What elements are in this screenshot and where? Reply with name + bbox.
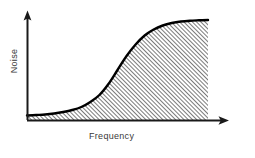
x-axis-label: Frequency: [89, 131, 134, 141]
noise-frequency-figure: Noise Frequency: [0, 0, 255, 158]
y-axis-label: Noise: [9, 41, 19, 81]
y-axis: [24, 11, 32, 121]
